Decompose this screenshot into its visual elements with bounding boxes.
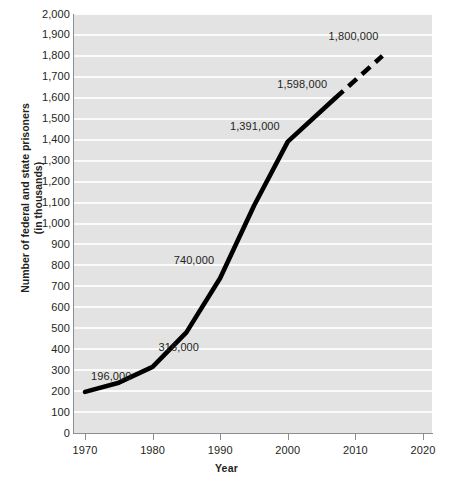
data-point-label: 1,391,000 bbox=[230, 120, 280, 132]
x-axis-line bbox=[73, 433, 433, 434]
series-line-actual bbox=[85, 98, 335, 392]
y-tick-label: 100 bbox=[4, 407, 70, 418]
x-tick-mark bbox=[153, 434, 154, 440]
y-tick-label: 500 bbox=[4, 323, 70, 334]
y-axis-title-line-1: Number of federal and state prisoners bbox=[19, 78, 32, 318]
data-point-label: 196,000 bbox=[91, 370, 131, 382]
x-tick-label: 2000 bbox=[275, 444, 300, 456]
x-tick-mark bbox=[423, 434, 424, 440]
y-axis-title-line-2: (in thousands) bbox=[32, 78, 45, 318]
x-tick-label: 1980 bbox=[140, 444, 165, 456]
y-tick-label: 2,000 bbox=[4, 9, 70, 20]
x-tick-label: 2010 bbox=[343, 444, 368, 456]
x-tick-label: 1990 bbox=[208, 444, 233, 456]
x-tick-mark bbox=[85, 434, 86, 440]
y-axis-title: Number of federal and state prisoners (i… bbox=[19, 78, 45, 318]
y-tick-label: 0 bbox=[4, 428, 70, 439]
x-tick-label: 1970 bbox=[73, 444, 98, 456]
data-point-label: 1,800,000 bbox=[329, 30, 379, 42]
y-axis-line bbox=[73, 14, 74, 434]
y-tick-label: 1,800 bbox=[4, 50, 70, 61]
x-tick-label: 2020 bbox=[411, 444, 436, 456]
x-tick-mark bbox=[220, 434, 221, 440]
y-tick-label: 200 bbox=[4, 386, 70, 397]
data-point-label: 740,000 bbox=[174, 254, 214, 266]
x-tick-mark bbox=[288, 434, 289, 440]
y-tick-label: 300 bbox=[4, 365, 70, 376]
data-point-label: 1,598,000 bbox=[277, 78, 327, 90]
x-tick-mark bbox=[355, 434, 356, 440]
prisoner-population-line-chart: 01002003004005006007008009001,0001,1001,… bbox=[0, 0, 453, 486]
series-line-projected bbox=[335, 56, 382, 98]
y-tick-label: 400 bbox=[4, 344, 70, 355]
x-axis-title: Year bbox=[0, 462, 453, 474]
data-point-label: 316,000 bbox=[159, 341, 199, 353]
y-tick-label: 1,900 bbox=[4, 29, 70, 40]
